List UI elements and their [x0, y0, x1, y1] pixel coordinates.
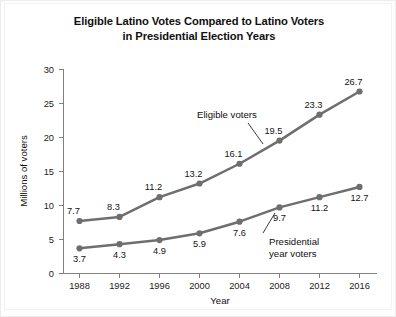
y-tick-marks: [59, 70, 64, 274]
data-label: 4.9: [153, 246, 166, 256]
y-tick-label-5: 5: [49, 235, 54, 245]
x-tick-label-1992: 1992: [109, 281, 130, 291]
y-tick-label-20: 20: [44, 133, 54, 143]
series-presidential-year-voters: 3.74.34.95.97.69.711.212.7: [73, 184, 369, 264]
data-point: [356, 184, 362, 190]
chart-figure: Eligible Latino Votes Compared to Latino…: [0, 0, 396, 317]
data-label: 11.2: [145, 182, 162, 192]
data-point: [156, 194, 162, 200]
data-point: [236, 161, 242, 167]
data-label: 8.3: [107, 202, 120, 212]
series-eligible-voters: 7.78.311.213.216.119.523.326.7: [67, 77, 363, 225]
data-label: 4.3: [113, 250, 126, 260]
data-label: 26.7: [344, 77, 362, 87]
data-point: [356, 88, 362, 94]
series-layer: 7.78.311.213.216.119.523.326.73.74.34.95…: [67, 77, 369, 265]
y-tick-label-25: 25: [44, 99, 54, 109]
x-tick-label-1988: 1988: [69, 281, 90, 291]
data-point: [316, 194, 322, 200]
data-label: 11.2: [311, 203, 328, 213]
data-label: 23.3: [304, 100, 322, 110]
data-label: 7.7: [67, 206, 80, 216]
data-point: [116, 214, 122, 220]
y-tick-label-10: 10: [44, 201, 54, 211]
y-tick-label-30: 30: [44, 65, 54, 75]
data-point: [156, 237, 162, 243]
data-label: 12.7: [350, 193, 368, 203]
y-tick-label-0: 0: [49, 269, 54, 279]
data-label: 9.7: [273, 213, 286, 223]
x-tick-label-2012: 2012: [309, 281, 330, 291]
annotation-presidential-voters-line-2: year voters: [269, 248, 317, 259]
data-label: 7.6: [233, 228, 246, 238]
annotation-presidential-voters-line-1: Presidential: [269, 236, 319, 247]
data-point: [196, 230, 202, 236]
data-label: 3.7: [73, 254, 86, 264]
data-label: 13.2: [184, 169, 202, 179]
data-label: 19.5: [264, 126, 282, 136]
x-tick-label-1996: 1996: [149, 281, 170, 291]
y-tick-label-15: 15: [44, 167, 54, 177]
y-axis-title: Millions of voters: [18, 135, 29, 207]
data-point: [276, 137, 282, 143]
data-point: [76, 245, 82, 251]
data-point: [76, 218, 82, 224]
data-point: [276, 204, 282, 210]
data-point: [236, 219, 242, 225]
data-point: [316, 112, 322, 118]
x-tick-label-2008: 2008: [269, 281, 290, 291]
annotation-eligible-voters: Eligible voters: [197, 109, 257, 120]
x-tick-label-2016: 2016: [349, 281, 370, 291]
eligible-voters-leader-line: [248, 123, 263, 144]
data-point: [196, 180, 202, 186]
data-point: [116, 241, 122, 247]
data-label: 5.9: [193, 239, 206, 249]
x-tick-label-2000: 2000: [189, 281, 210, 291]
x-tick-marks: [80, 274, 360, 279]
x-axis-title: Year: [210, 295, 230, 306]
chart-plot: 30 25 20 15 10 5 0 Millions of voters 19…: [1, 1, 396, 317]
data-label: 16.1: [224, 149, 242, 159]
x-tick-label-2004: 2004: [229, 281, 250, 291]
